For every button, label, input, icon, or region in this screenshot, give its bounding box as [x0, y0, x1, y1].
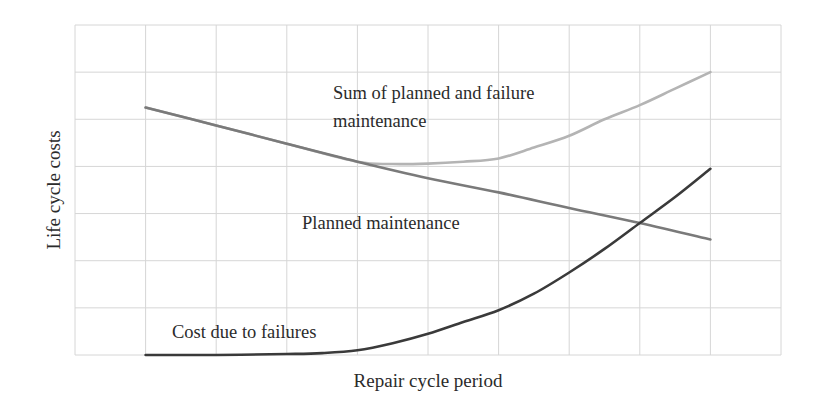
sum-series-label-line1: Sum of planned and failure	[333, 83, 534, 104]
x-axis-label: Repair cycle period	[354, 370, 503, 392]
chart-plot-area	[0, 0, 819, 401]
failures-series-label: Cost due to failures	[172, 322, 316, 343]
grid	[75, 25, 781, 355]
y-axis-label: Life cycle costs	[43, 130, 65, 249]
sum-series-label-line2: maintenance	[333, 111, 426, 132]
planned-series-label: Planned maintenance	[302, 213, 460, 234]
